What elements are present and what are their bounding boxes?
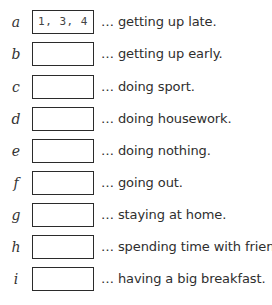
- item-letter: e: [8, 143, 24, 159]
- item-phrase: … doing housework.: [101, 111, 232, 126]
- item-phrase: … going out.: [101, 175, 183, 190]
- item-letter: c: [8, 79, 24, 95]
- item-letter: g: [8, 207, 24, 223]
- exercise-item-f: f … going out.: [0, 171, 272, 197]
- exercise-item-a: a 1, 3, 4 … getting up late.: [0, 10, 272, 36]
- exercise-item-d: d … doing housework.: [0, 107, 272, 133]
- exercise-item-h: h … spending time with friends.: [0, 235, 272, 261]
- item-letter: i: [8, 271, 24, 287]
- item-phrase: … getting up early.: [101, 46, 222, 61]
- exercise-item-i: i … having a big breakfast.: [0, 267, 272, 293]
- item-phrase: … staying at home.: [101, 207, 226, 222]
- item-phrase: … getting up late.: [101, 14, 216, 29]
- answer-box-f[interactable]: [32, 171, 94, 195]
- exercise-item-c: c … doing sport.: [0, 75, 272, 101]
- exercise-item-b: b … getting up early.: [0, 42, 272, 68]
- answer-box-b[interactable]: [32, 42, 94, 66]
- item-phrase: … doing sport.: [101, 79, 195, 94]
- item-phrase: … having a big breakfast.: [101, 271, 265, 286]
- answer-text: 1, 3, 4: [33, 11, 93, 33]
- answer-box-e[interactable]: [32, 139, 94, 163]
- answer-box-c[interactable]: [32, 75, 94, 99]
- answer-box-d[interactable]: [32, 107, 94, 131]
- exercise-item-g: g … staying at home.: [0, 203, 272, 229]
- answer-box-h[interactable]: [32, 235, 94, 259]
- item-letter: a: [8, 14, 24, 30]
- answer-box-g[interactable]: [32, 203, 94, 227]
- exercise-item-e: e … doing nothing.: [0, 139, 272, 165]
- item-letter: h: [8, 239, 24, 255]
- item-letter: d: [8, 111, 24, 127]
- item-letter: f: [8, 175, 24, 191]
- item-letter: b: [8, 46, 24, 62]
- answer-box-i[interactable]: [32, 267, 94, 291]
- item-phrase: … spending time with friends.: [101, 239, 272, 254]
- item-phrase: … doing nothing.: [101, 143, 211, 158]
- answer-box-a[interactable]: 1, 3, 4: [32, 10, 94, 34]
